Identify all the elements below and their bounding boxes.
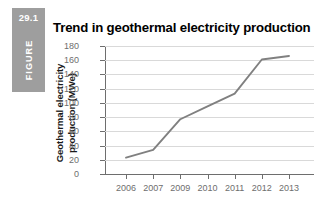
y-tick-label: 100 <box>55 98 79 107</box>
y-tick-label: 120 <box>55 84 79 93</box>
figure-word-label: FIGURE <box>24 40 34 81</box>
data-series-layer <box>84 46 314 188</box>
chart-title: Trend in geothermal electricity producti… <box>53 20 321 35</box>
y-tick-label: 160 <box>55 56 79 65</box>
y-tick-label: 20 <box>55 155 79 164</box>
y-tick-label: 0 <box>55 170 79 179</box>
plot-area: 020406080100120140160180 200620072009201… <box>84 46 314 188</box>
y-tick-label: 80 <box>55 113 79 122</box>
figure-number: 29.1 <box>12 12 45 23</box>
y-tick-label: 60 <box>55 127 79 136</box>
y-tick-label: 40 <box>55 141 79 150</box>
figure-badge: 29.1 FIGURE <box>12 8 45 92</box>
figure-word-container: FIGURE <box>12 30 45 90</box>
y-tick-label: 180 <box>55 42 79 51</box>
y-tick-label: 140 <box>55 70 79 79</box>
line-series-geothermal <box>126 56 289 158</box>
